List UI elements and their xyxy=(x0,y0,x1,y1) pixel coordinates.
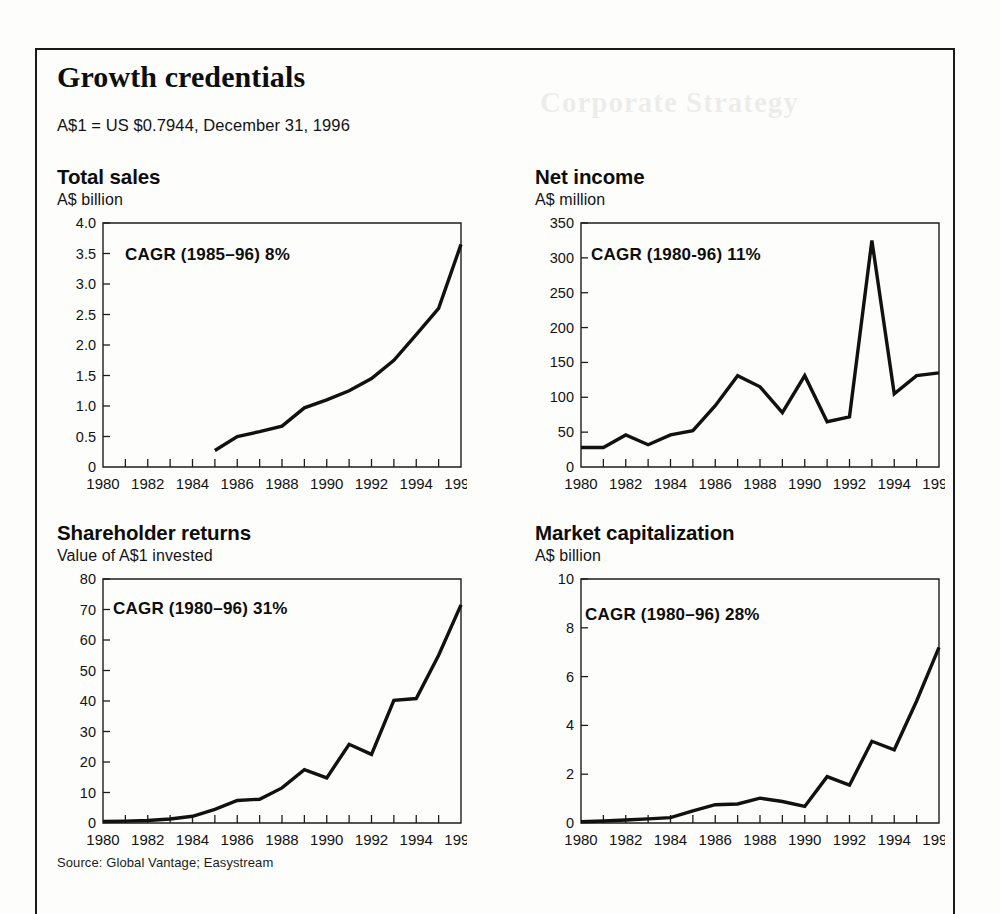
source-note: Source: Global Vantage; Easystream xyxy=(57,855,273,870)
svg-text:50: 50 xyxy=(558,424,574,440)
svg-text:40: 40 xyxy=(80,693,96,709)
svg-text:3.5: 3.5 xyxy=(76,246,96,262)
svg-text:1990: 1990 xyxy=(310,475,343,492)
chart-subtitle-market-capitalization: A$ billion xyxy=(535,546,945,565)
svg-text:10: 10 xyxy=(80,785,96,801)
chart-subtitle-shareholder-returns: Value of A$1 invested xyxy=(57,546,467,565)
svg-text:3.0: 3.0 xyxy=(76,276,96,292)
svg-text:1994: 1994 xyxy=(400,475,433,492)
svg-text:300: 300 xyxy=(550,250,574,266)
svg-text:1980: 1980 xyxy=(564,831,597,848)
svg-text:50: 50 xyxy=(80,663,96,679)
chart-subtitle-net-income: A$ million xyxy=(535,190,945,209)
chart-panel-net-income: Net income A$ million 050100150200250300… xyxy=(535,166,945,505)
cagr-annotation-market-capitalization: CAGR (1980–96) 28% xyxy=(585,605,760,625)
svg-text:4.0: 4.0 xyxy=(76,215,96,231)
svg-text:1988: 1988 xyxy=(743,831,776,848)
chart-title-total-sales: Total sales xyxy=(57,166,467,189)
svg-text:4: 4 xyxy=(566,718,574,734)
chart-title-shareholder-returns: Shareholder returns xyxy=(57,522,467,545)
chart-row-top: Total sales A$ billion 00.51.01.52.02.53… xyxy=(57,166,957,505)
svg-text:1982: 1982 xyxy=(131,831,164,848)
svg-text:20: 20 xyxy=(80,754,96,770)
svg-text:1980: 1980 xyxy=(564,475,597,492)
svg-text:1984: 1984 xyxy=(654,475,687,492)
svg-text:1996: 1996 xyxy=(444,475,467,492)
plot-wrap-market-capitalization: 0246810198019821984198619881990199219941… xyxy=(535,571,945,861)
svg-text:1990: 1990 xyxy=(788,475,821,492)
cagr-annotation-net-income: CAGR (1980-96) 11% xyxy=(591,245,761,265)
svg-text:150: 150 xyxy=(550,355,574,371)
svg-text:1984: 1984 xyxy=(176,831,209,848)
svg-text:0: 0 xyxy=(88,815,96,831)
svg-text:1986: 1986 xyxy=(221,475,254,492)
svg-text:1.5: 1.5 xyxy=(76,368,96,384)
svg-text:0.5: 0.5 xyxy=(76,429,96,445)
svg-text:1996: 1996 xyxy=(922,475,945,492)
svg-text:1986: 1986 xyxy=(221,831,254,848)
svg-text:1992: 1992 xyxy=(355,475,388,492)
svg-text:100: 100 xyxy=(550,389,574,405)
svg-text:0: 0 xyxy=(566,815,574,831)
svg-text:30: 30 xyxy=(80,724,96,740)
chart-panel-total-sales: Total sales A$ billion 00.51.01.52.02.53… xyxy=(57,166,467,505)
svg-text:1996: 1996 xyxy=(444,831,467,848)
svg-text:1988: 1988 xyxy=(265,475,298,492)
chart-title-market-capitalization: Market capitalization xyxy=(535,522,945,545)
svg-text:1982: 1982 xyxy=(609,831,642,848)
chart-grid: Total sales A$ billion 00.51.01.52.02.53… xyxy=(57,166,957,861)
chart-panel-market-capitalization: Market capitalization A$ billion 0246810… xyxy=(535,522,945,861)
chart-panel-shareholder-returns: Shareholder returns Value of A$1 investe… xyxy=(57,522,467,861)
svg-text:1994: 1994 xyxy=(878,831,911,848)
plot-wrap-net-income: 0501001502002503003501980198219841986198… xyxy=(535,215,945,505)
svg-text:1984: 1984 xyxy=(176,475,209,492)
svg-text:1994: 1994 xyxy=(400,831,433,848)
svg-text:1990: 1990 xyxy=(310,831,343,848)
svg-text:1982: 1982 xyxy=(609,475,642,492)
svg-text:1992: 1992 xyxy=(355,831,388,848)
svg-text:1980: 1980 xyxy=(86,831,119,848)
svg-text:1986: 1986 xyxy=(699,475,732,492)
svg-text:1992: 1992 xyxy=(833,831,866,848)
svg-text:1984: 1984 xyxy=(654,831,687,848)
svg-text:0: 0 xyxy=(88,459,96,475)
svg-text:1990: 1990 xyxy=(788,831,821,848)
svg-text:350: 350 xyxy=(550,215,574,231)
cagr-annotation-total-sales: CAGR (1985–96) 8% xyxy=(125,245,290,265)
svg-text:200: 200 xyxy=(550,320,574,336)
svg-text:1980: 1980 xyxy=(86,475,119,492)
chart-row-bottom: Shareholder returns Value of A$1 investe… xyxy=(57,522,957,861)
chart-title-net-income: Net income xyxy=(535,166,945,189)
exhibit-content: Growth credentials A$1 = US $0.7944, Dec… xyxy=(57,62,962,902)
svg-text:6: 6 xyxy=(566,669,574,685)
svg-text:2.0: 2.0 xyxy=(76,337,96,353)
exhibit-title: Growth credentials xyxy=(57,62,962,92)
svg-text:250: 250 xyxy=(550,285,574,301)
svg-text:1994: 1994 xyxy=(878,475,911,492)
svg-text:1982: 1982 xyxy=(131,475,164,492)
svg-text:0: 0 xyxy=(566,459,574,475)
svg-text:80: 80 xyxy=(80,571,96,587)
svg-text:1992: 1992 xyxy=(833,475,866,492)
svg-text:2.5: 2.5 xyxy=(76,307,96,323)
svg-text:1.0: 1.0 xyxy=(76,398,96,414)
exchange-rate-note: A$1 = US $0.7944, December 31, 1996 xyxy=(57,117,962,134)
svg-text:10: 10 xyxy=(558,571,574,587)
svg-text:1986: 1986 xyxy=(699,831,732,848)
plot-wrap-shareholder-returns: 0102030405060708019801982198419861988199… xyxy=(57,571,467,861)
svg-text:1988: 1988 xyxy=(265,831,298,848)
svg-text:2: 2 xyxy=(566,766,574,782)
svg-text:70: 70 xyxy=(80,602,96,618)
svg-text:1996: 1996 xyxy=(922,831,945,848)
cagr-annotation-shareholder-returns: CAGR (1980–96) 31% xyxy=(113,599,288,619)
plot-wrap-total-sales: 00.51.01.52.02.53.03.54.0198019821984198… xyxy=(57,215,467,505)
svg-text:60: 60 xyxy=(80,632,96,648)
svg-text:8: 8 xyxy=(566,620,574,636)
chart-subtitle-total-sales: A$ billion xyxy=(57,190,467,209)
svg-text:1988: 1988 xyxy=(743,475,776,492)
